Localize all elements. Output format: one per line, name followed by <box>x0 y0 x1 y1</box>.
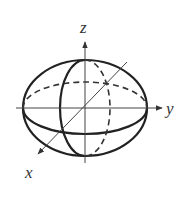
y-axis-label: y <box>164 99 174 118</box>
z-axis-label: z <box>79 18 87 37</box>
x-axis-label: x <box>24 163 33 182</box>
ellipsoid-diagram: z y x <box>0 0 180 199</box>
